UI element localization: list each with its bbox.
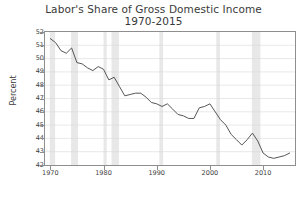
x-axis-tick-label: 1980 — [84, 170, 124, 177]
x-axis-tick-label: 2010 — [243, 170, 283, 177]
chart-figure: Labor's Share of Gross Domestic Income 1… — [0, 0, 307, 200]
x-axis-tickmark — [263, 166, 264, 170]
x-axis-tickmark — [104, 166, 105, 170]
x-axis-tick-label: 1990 — [137, 170, 177, 177]
x-axis-tickmark — [210, 166, 211, 170]
x-axis-tick-label: 1970 — [30, 170, 70, 177]
chart-title: Labor's Share of Gross Domestic Income — [0, 3, 307, 15]
plot-area — [44, 31, 296, 166]
chart-subtitle: 1970-2015 — [0, 15, 307, 27]
x-axis-tickmark — [157, 166, 158, 170]
chart-plot-svg — [45, 32, 295, 165]
x-axis-tick-label: 2000 — [190, 170, 230, 177]
x-axis-tickmark — [50, 166, 51, 170]
y-axis-label: Percent — [9, 61, 18, 121]
chart-title-block: Labor's Share of Gross Domestic Income 1… — [0, 3, 307, 27]
